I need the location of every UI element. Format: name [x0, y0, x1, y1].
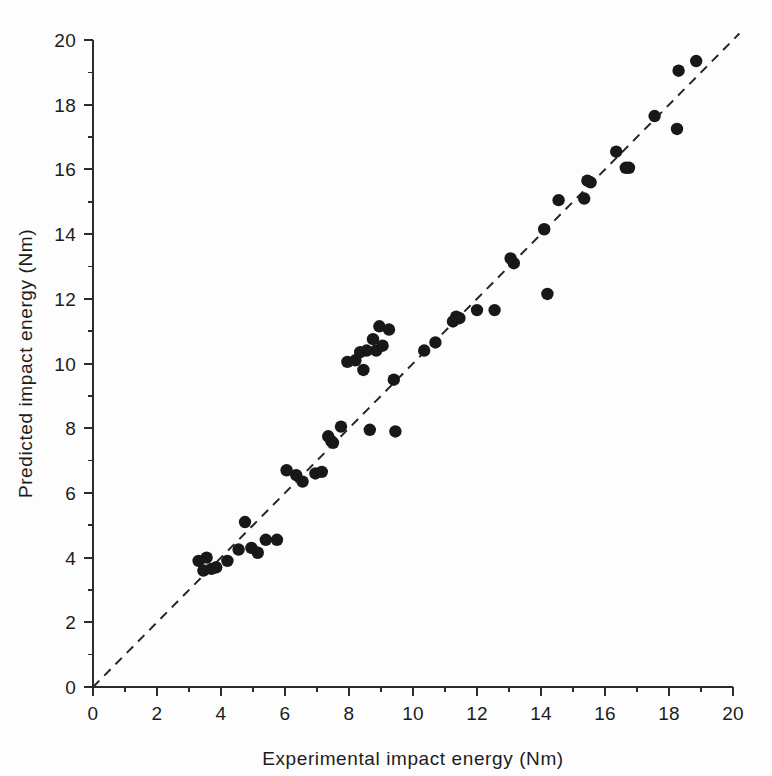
x-tick-label: 6: [280, 703, 291, 724]
y-tick-label: 4: [65, 548, 76, 569]
data-point: [260, 534, 272, 546]
data-point: [357, 364, 369, 376]
data-points-group: [192, 55, 702, 577]
data-point: [623, 162, 635, 174]
data-point: [578, 192, 590, 204]
x-tick-label: 12: [466, 703, 488, 724]
parity-line: [93, 34, 739, 687]
data-point: [335, 420, 347, 432]
plot-canvas: 0246810121416182002468101214161820 Exper…: [0, 0, 772, 776]
scatter-plot-figure: 0246810121416182002468101214161820 Exper…: [0, 0, 772, 776]
data-point: [541, 288, 553, 300]
data-point: [376, 340, 388, 352]
x-tick-label: 14: [530, 703, 552, 724]
y-tick-label: 10: [54, 354, 76, 375]
data-point: [429, 336, 441, 348]
data-point: [364, 424, 376, 436]
y-tick-label: 20: [54, 30, 76, 51]
data-point: [327, 437, 339, 449]
data-point: [648, 110, 660, 122]
x-tick-label: 4: [216, 703, 227, 724]
data-point: [453, 312, 465, 324]
data-point: [296, 475, 308, 487]
data-point: [200, 551, 212, 563]
x-tick-label: 8: [344, 703, 355, 724]
x-tick-label: 16: [594, 703, 616, 724]
x-tick-label: 20: [722, 703, 744, 724]
data-point: [418, 344, 430, 356]
parity-reference-line: [93, 34, 739, 687]
data-point: [383, 323, 395, 335]
data-point: [538, 223, 550, 235]
y-tick-label: 6: [65, 483, 76, 504]
y-tick-label: 2: [65, 612, 76, 633]
data-point: [232, 543, 244, 555]
data-point: [271, 534, 283, 546]
data-point: [488, 304, 500, 316]
x-tick-label: 10: [402, 703, 424, 724]
data-point: [316, 466, 328, 478]
data-point: [690, 55, 702, 67]
data-point: [610, 145, 622, 157]
data-point: [552, 194, 564, 206]
x-tick-label: 0: [88, 703, 99, 724]
y-tick-label: 18: [54, 95, 76, 116]
x-tick-label: 2: [152, 703, 163, 724]
data-point: [239, 516, 251, 528]
data-point: [221, 555, 233, 567]
y-tick-label: 14: [54, 224, 76, 245]
x-tick-label: 18: [658, 703, 680, 724]
y-tick-label: 12: [54, 289, 76, 310]
data-point: [389, 425, 401, 437]
data-point: [671, 123, 683, 135]
data-point: [471, 304, 483, 316]
data-point: [584, 176, 596, 188]
y-tick-label: 16: [54, 159, 76, 180]
data-point: [508, 257, 520, 269]
data-point: [672, 65, 684, 77]
data-point: [252, 547, 264, 559]
data-point: [388, 373, 400, 385]
y-tick-label: 0: [65, 677, 76, 698]
y-tick-label: 8: [65, 418, 76, 439]
data-point: [210, 561, 222, 573]
x-axis-title: Experimental impact energy (Nm): [262, 748, 564, 769]
y-axis-title: Predicted impact energy (Nm): [15, 229, 36, 498]
